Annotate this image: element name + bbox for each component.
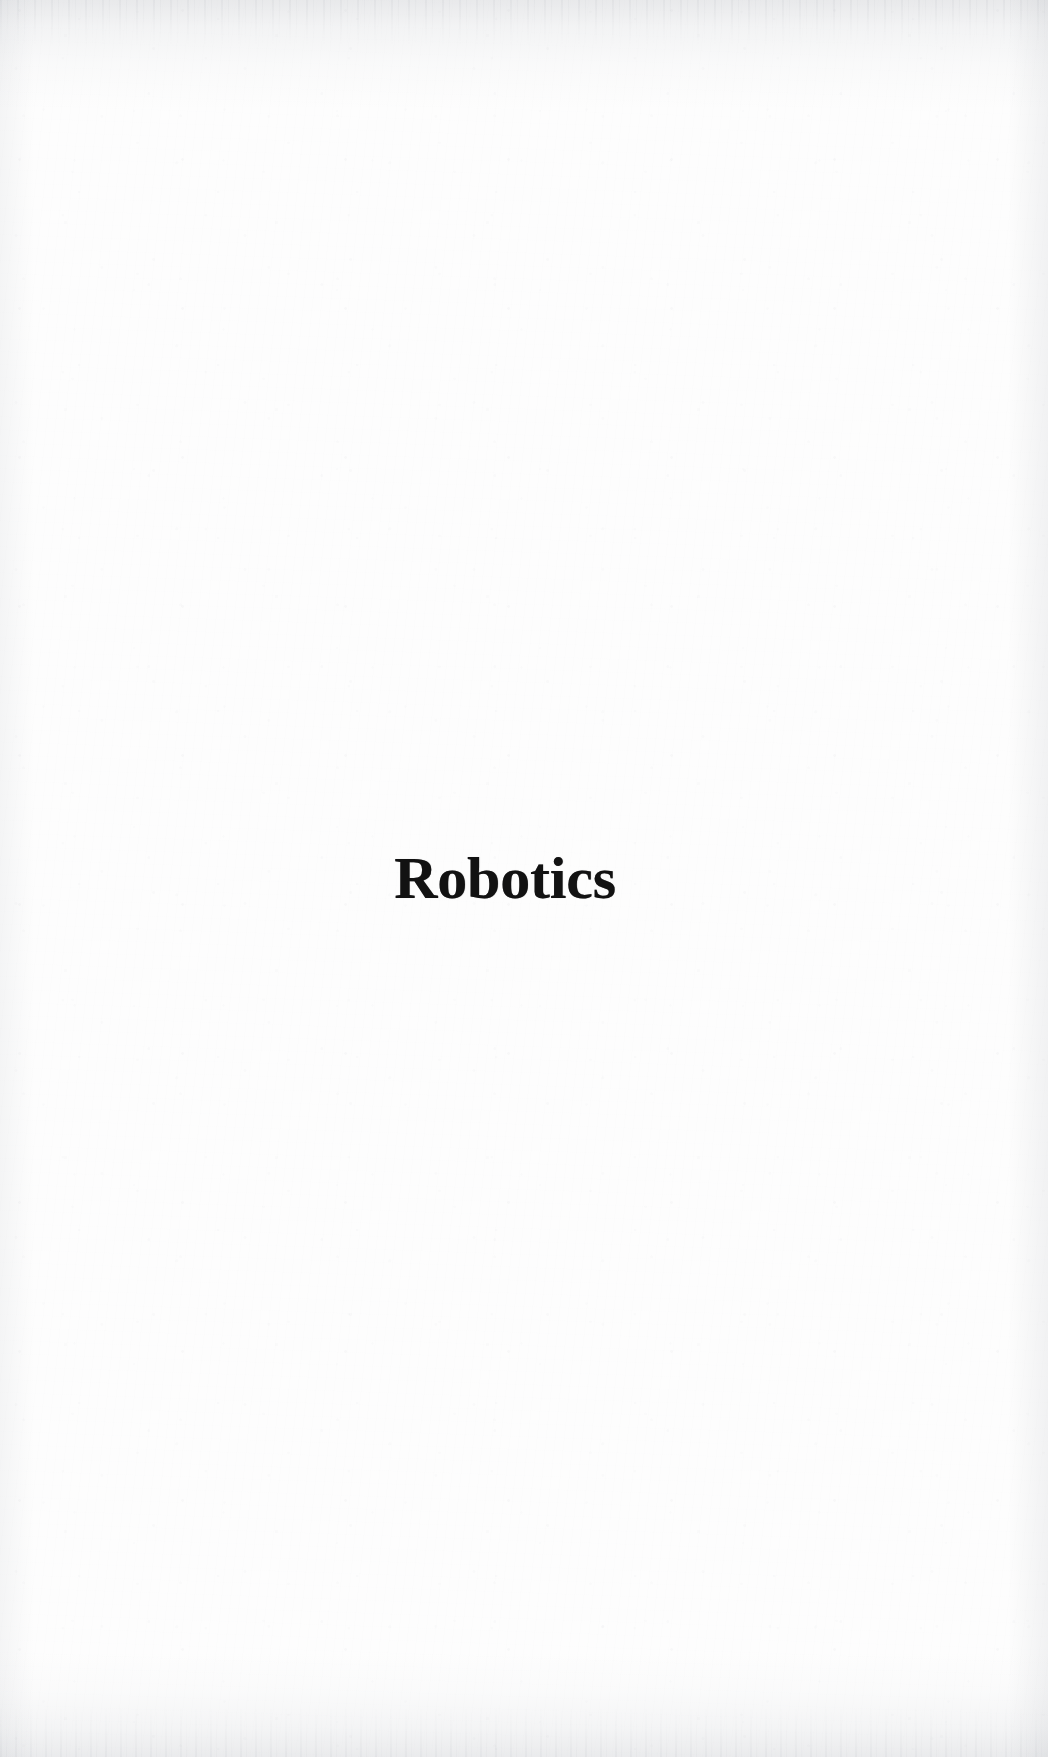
page-title: Robotics xyxy=(394,848,616,908)
scanned-page: Robotics xyxy=(0,0,1048,1757)
part-title-block: Robotics xyxy=(0,848,1048,908)
